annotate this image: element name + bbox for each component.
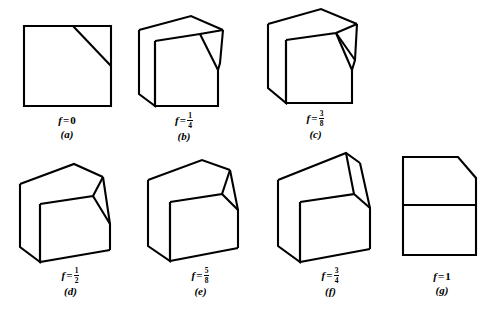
- fraction-one-quarter: 14: [187, 112, 193, 129]
- caption-c: f=38 (c): [258, 108, 373, 141]
- top-back-edges: [20, 164, 103, 184]
- caption-e: f=58 (e): [138, 265, 263, 298]
- fraction-one-half: 12: [74, 267, 80, 284]
- top-back-edges: [148, 160, 230, 180]
- front-face-outline: [300, 202, 370, 262]
- panel-f: f=34 (f): [268, 144, 393, 297]
- value-f: 0: [70, 114, 76, 126]
- symbol-equals: =: [195, 269, 203, 281]
- left-face-edges: [148, 180, 170, 261]
- fraction-three-quarters: 34: [334, 267, 340, 284]
- fraction-numerator: 3: [334, 267, 340, 276]
- fraction-denominator: 8: [204, 276, 210, 284]
- panel-e: f=58 (e): [138, 148, 263, 297]
- caption-f: f=34 (f): [268, 265, 393, 298]
- caption-a: f=0 (a): [12, 110, 122, 140]
- caption-d-letter: (d): [8, 285, 133, 297]
- top-ridge-edges: [155, 30, 223, 41]
- fraction-denominator: 4: [334, 276, 340, 284]
- caption-a-letter: (a): [12, 128, 122, 140]
- left-face-edges: [268, 24, 286, 103]
- panel-b: f=14 (b): [128, 8, 240, 139]
- fraction-five-eighths: 58: [204, 267, 210, 284]
- front-face-outline: [40, 204, 110, 262]
- caption-b-equation: f=14: [128, 110, 240, 130]
- caption-c-letter: (c): [258, 128, 373, 140]
- diagonal-cut-line: [73, 26, 111, 66]
- caption-g-equation: f=1: [392, 266, 492, 284]
- caption-a-equation: f=0: [12, 110, 122, 128]
- left-face-edges: [139, 30, 155, 106]
- shape-a-square-with-diagonal: [12, 14, 122, 109]
- caption-c-equation: f=38: [258, 108, 373, 128]
- caption-f-equation: f=34: [268, 265, 393, 285]
- interface-diagonal-line: [200, 34, 218, 70]
- left-face-edges: [20, 184, 40, 262]
- caption-b-letter: (b): [128, 130, 240, 142]
- fraction-denominator: 8: [319, 119, 325, 127]
- symbol-equals: =: [65, 269, 73, 281]
- panel-d: f=12 (d): [8, 152, 133, 297]
- caption-d-equation: f=12: [8, 265, 133, 285]
- fraction-numerator: 3: [319, 110, 325, 119]
- shape-c-block-sloped-corner: [258, 4, 373, 110]
- square-outline: [24, 26, 111, 106]
- figure-root: f=0 (a) f=14: [0, 0, 493, 311]
- shape-d-cube-corner-wedge: [8, 152, 133, 267]
- top-ridge-edges: [170, 170, 230, 202]
- fraction-denominator: 2: [74, 276, 80, 284]
- fraction-denominator: 4: [187, 121, 193, 129]
- panel-g: f=1 (g): [392, 150, 492, 297]
- shape-f-cube-peaked-ridge: [268, 144, 393, 266]
- caption-g: f=1 (g): [392, 266, 492, 296]
- panel-c: f=38 (c): [258, 4, 373, 139]
- shape-b-shallow-block: [128, 8, 240, 110]
- fraction-numerator: 5: [204, 267, 210, 276]
- shape-g-chamfered-rectangle: [392, 150, 492, 268]
- caption-e-equation: f=58: [138, 265, 263, 285]
- top-ridge-edges: [286, 24, 357, 40]
- value-f: 1: [445, 270, 451, 282]
- top-back-edges: [139, 16, 223, 30]
- caption-d: f=12 (d): [8, 265, 133, 298]
- symbol-equals: =: [310, 112, 318, 124]
- front-face-outline: [170, 202, 238, 261]
- symbol-equals: =: [179, 114, 187, 126]
- fraction-numerator: 1: [187, 112, 193, 121]
- shape-e-cube-taller-wedge: [138, 148, 263, 266]
- right-cut-edge: [352, 24, 357, 70]
- fraction-three-eighths: 38: [319, 110, 325, 127]
- panel-a: f=0 (a): [12, 14, 122, 139]
- caption-g-letter: (g): [392, 284, 492, 296]
- caption-e-letter: (e): [138, 285, 263, 297]
- top-ridge-edges: [40, 177, 103, 204]
- right-cut-edge: [218, 30, 223, 70]
- caption-f-letter: (f): [268, 285, 393, 297]
- top-back-edges: [268, 9, 357, 24]
- caption-b: f=14 (b): [128, 110, 240, 143]
- left-face-edges: [278, 180, 300, 262]
- fraction-numerator: 1: [74, 267, 80, 276]
- symbol-equals: =: [325, 269, 333, 281]
